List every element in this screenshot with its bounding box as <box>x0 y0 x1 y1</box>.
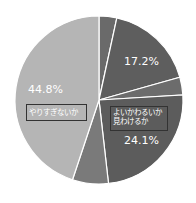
annotation-line-1: よいかわるいか <box>113 108 165 117</box>
slice-label-24-1: 24.1% <box>124 134 159 147</box>
annotation-yarisuginaika: やりすぎないか <box>26 104 87 121</box>
pie-chart <box>0 0 196 203</box>
annotation-yoikawaruika: よいかわるいか 見わけるか <box>110 106 168 131</box>
annotation-line-2: 見わけるか <box>113 117 165 126</box>
slice-label-17-2: 17.2% <box>124 55 159 68</box>
slice-label-44-8: 44.8% <box>28 83 63 96</box>
